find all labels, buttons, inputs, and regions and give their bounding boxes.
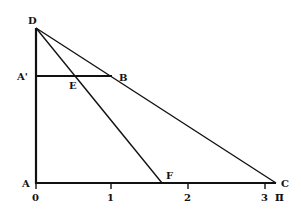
label-D: D	[28, 15, 37, 26]
segment-DF	[36, 28, 162, 183]
tick-label-2: 2	[184, 192, 191, 203]
tick-label-0: 0	[32, 192, 39, 203]
tick-label-1: 1	[107, 192, 114, 203]
label-C: C	[281, 178, 289, 189]
label-B: B	[119, 72, 127, 83]
label-A: A	[21, 178, 30, 189]
label-A-prime: A'	[16, 71, 28, 82]
label-F: F	[166, 170, 173, 181]
tick-label-3: 3	[261, 192, 268, 203]
geometry-diagram: D A' B E A F C 0 1 2 3 π	[0, 0, 301, 220]
segment-DC	[36, 28, 276, 183]
label-E: E	[69, 80, 77, 91]
tick-label-pi: π	[275, 190, 284, 204]
